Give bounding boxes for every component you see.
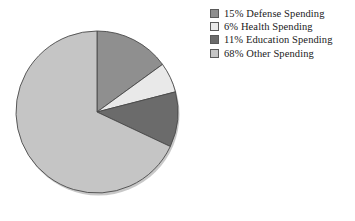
legend-item-other[interactable]: 68% Other Spending: [210, 47, 355, 60]
legend-swatch-health: [210, 22, 219, 31]
legend-label-defense: 15% Defense Spending: [224, 7, 325, 20]
legend-item-health[interactable]: 6% Health Spending: [210, 20, 355, 33]
legend-swatch-education: [210, 35, 219, 44]
pie-chart-plot-area: [0, 0, 200, 221]
legend-item-defense[interactable]: 15% Defense Spending: [210, 7, 355, 20]
legend-swatch-defense: [210, 9, 219, 18]
pie-chart-svg: [0, 0, 200, 221]
pie-slice-group: [16, 31, 180, 196]
legend-label-other: 68% Other Spending: [224, 47, 314, 60]
pie-chart-figure: 15% Defense Spending 6% Health Spending …: [0, 0, 355, 221]
legend-label-health: 6% Health Spending: [224, 20, 313, 33]
legend-item-education[interactable]: 11% Education Spending: [210, 33, 355, 46]
chart-legend: 15% Defense Spending 6% Health Spending …: [210, 7, 355, 60]
legend-label-education: 11% Education Spending: [224, 33, 333, 46]
legend-swatch-other: [210, 49, 219, 58]
